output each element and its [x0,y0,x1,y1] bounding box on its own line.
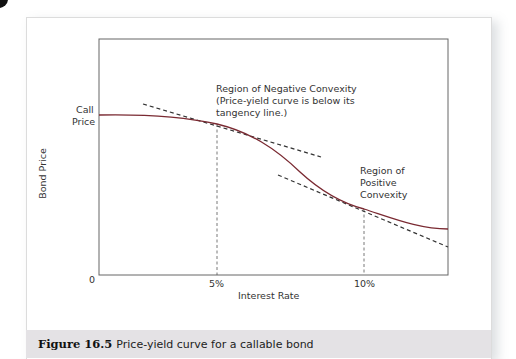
figure-title: Price-yield curve for a callable bond [116,338,313,351]
positive-convexity-line3: Convexity [360,189,407,201]
figure-caption: Figure 16.5Price-yield curve for a calla… [38,337,314,351]
call-price-label-1: Call [76,104,94,116]
call-price-label-2: Price [72,116,95,128]
negative-convexity-line1: Region of Negative Convexity [216,83,357,95]
y-axis-label: Bond Price [37,148,48,199]
negative-convexity-line3: tangency line.) [216,107,287,119]
y-origin-label: 0 [89,274,95,286]
plot-frame [99,39,448,275]
positive-convexity-line2: Positive [360,177,397,189]
x-tick-5pct: 5% [209,278,224,290]
x-axis-label: Interest Rate [238,290,299,302]
positive-convexity-line1: Region of [360,165,405,177]
negative-convexity-line2: (Price-yield curve is below its [216,95,355,107]
x-tick-10pct: 10% [354,278,375,290]
figure-number: Figure 16.5 [38,337,112,351]
